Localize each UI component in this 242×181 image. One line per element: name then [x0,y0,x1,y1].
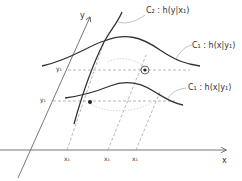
circled-point-inner [143,68,146,71]
projection-arc-upper [108,59,146,68]
y1-lower-label: y₁ [40,97,46,103]
curve-c2 [74,12,122,124]
curve-c1-lower-label: C₁ : h(x|y₁) [188,84,231,92]
curve-c2-label: C₂ : h(y|x₁) [146,7,189,15]
x1-c-label: x₁ [132,156,138,162]
leader-c2 [118,15,145,23]
leader-c1-lower [168,88,186,98]
x-axis-label: x [222,157,227,165]
y-axis [18,17,90,178]
y1-upper-label: y₁ [56,66,62,72]
x1-a-guide [67,42,104,150]
curve-c1-upper-label: C₁ : h(x|y₁) [192,42,235,50]
curve-c1-upper [42,37,200,66]
intersection-point-lower [88,100,92,104]
x1-a-label: x₁ [64,156,70,162]
x1-b-label: x₁ [104,156,110,162]
y-axis-label: y [80,12,85,20]
projection-arc-lower [90,100,155,111]
x1-b-guide [108,55,146,150]
leader-c1-upper [175,45,192,60]
